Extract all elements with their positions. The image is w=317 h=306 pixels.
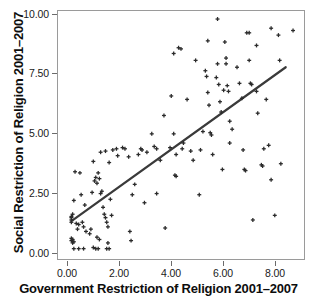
scatter-point xyxy=(77,247,81,251)
scatter-point xyxy=(203,69,207,73)
scatter-point xyxy=(99,150,103,154)
scatter-point xyxy=(83,203,87,207)
scatter-point xyxy=(94,175,98,179)
x-tick-label: 2.00 xyxy=(109,267,129,279)
scatter-point xyxy=(133,182,137,186)
scatter-point xyxy=(96,171,100,175)
scatter-point xyxy=(264,97,268,101)
scatter-point xyxy=(241,148,245,152)
scatter-point xyxy=(104,149,108,153)
scatter-plot-figure: 10.00 7.50 5.00 2.50 0.00 0.00 2.00 4.00… xyxy=(0,0,317,306)
scatter-point xyxy=(142,201,146,205)
scatter-point xyxy=(197,193,201,197)
scatter-point xyxy=(128,229,132,233)
scatter-point xyxy=(69,220,73,224)
y-tick-label: 2.50 xyxy=(29,187,49,199)
y-tick-mark xyxy=(52,73,57,74)
scatter-point xyxy=(155,192,159,196)
scatter-point xyxy=(256,111,260,115)
scatter-point xyxy=(185,97,189,101)
scatter-point xyxy=(230,127,234,131)
scatter-point xyxy=(105,220,109,224)
scatter-point xyxy=(162,113,166,117)
scatter-point xyxy=(80,220,84,224)
scatter-point xyxy=(223,40,227,44)
scatter-point xyxy=(255,43,259,47)
scatter-point xyxy=(240,96,244,100)
scatter-point xyxy=(107,161,111,165)
scatter-point xyxy=(228,141,232,145)
scatter-point xyxy=(279,162,283,166)
scatter-point xyxy=(169,94,173,98)
scatter-point xyxy=(101,205,105,209)
scatter-point xyxy=(214,76,218,80)
scatter-point xyxy=(191,158,195,162)
y-tick-mark xyxy=(52,253,57,254)
scatter-point xyxy=(78,171,82,175)
scatter-point xyxy=(96,247,100,251)
scatter-point xyxy=(199,148,203,152)
scatter-point xyxy=(95,181,99,185)
scatter-point xyxy=(211,153,215,157)
scatter-point xyxy=(104,216,108,220)
scatter-point xyxy=(110,213,114,217)
scatter-point xyxy=(116,154,120,158)
scatter-point xyxy=(219,110,223,114)
scatter-point xyxy=(235,65,239,69)
scatter-point xyxy=(251,218,255,222)
y-tick-label: 10.00 xyxy=(23,8,49,20)
scatter-point xyxy=(180,147,184,151)
scatter-point xyxy=(73,170,77,174)
x-tick-mark xyxy=(275,261,276,266)
scatter-point xyxy=(97,237,101,241)
scatter-point xyxy=(82,247,86,251)
scatter-point xyxy=(189,149,193,153)
scatter-point xyxy=(269,178,273,182)
scatter-point xyxy=(136,153,140,157)
scatter-point xyxy=(150,132,154,136)
scatter-point xyxy=(267,143,271,147)
scatter-point xyxy=(227,89,231,93)
x-tick-mark xyxy=(223,261,224,266)
y-tick-label: 5.00 xyxy=(29,127,49,139)
scatter-point xyxy=(276,33,280,37)
scatter-point xyxy=(127,155,131,159)
scatter-point xyxy=(222,88,226,92)
scatter-point xyxy=(172,51,176,55)
scatter-point xyxy=(84,229,88,233)
y-axis-title: Social Restriction of Religion 2001–2007 xyxy=(11,7,26,259)
scatter-points-layer xyxy=(58,11,304,259)
scatter-point xyxy=(145,150,149,154)
scatter-point xyxy=(76,227,80,231)
scatter-point xyxy=(88,232,92,236)
scatter-point xyxy=(174,153,178,157)
scatter-point xyxy=(217,82,221,86)
scatter-point xyxy=(152,144,156,148)
scatter-point xyxy=(206,91,210,95)
y-tick-label: 7.50 xyxy=(29,67,49,79)
scatter-point xyxy=(201,130,205,134)
scatter-point xyxy=(108,197,112,201)
scatter-point xyxy=(72,198,76,202)
x-axis-title: Government Restriction of Religion 2001–… xyxy=(0,281,317,296)
scatter-point xyxy=(206,39,210,43)
scatter-point xyxy=(237,81,241,85)
scatter-point xyxy=(106,241,110,245)
scatter-point xyxy=(228,119,232,123)
x-tick-label: 0.00 xyxy=(57,267,77,279)
x-tick-label: 8.00 xyxy=(265,267,285,279)
y-tick-mark xyxy=(52,14,57,15)
scatter-point xyxy=(163,226,167,230)
plot-area xyxy=(57,10,305,260)
scatter-point xyxy=(262,147,266,151)
scatter-point xyxy=(93,179,97,183)
scatter-point xyxy=(91,159,95,163)
scatter-point xyxy=(97,177,101,181)
scatter-point xyxy=(82,225,86,229)
scatter-point xyxy=(224,56,228,60)
scatter-point xyxy=(102,212,106,216)
x-tick-mark xyxy=(119,261,120,266)
scatter-point xyxy=(194,58,198,62)
x-tick-label: 6.00 xyxy=(213,267,233,279)
scatter-point xyxy=(278,58,282,62)
